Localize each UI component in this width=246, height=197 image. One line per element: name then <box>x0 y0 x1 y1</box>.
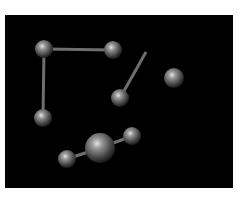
bond <box>43 49 44 118</box>
atom-sphere <box>164 68 184 88</box>
atom-sphere <box>123 127 141 145</box>
atom-sphere <box>35 40 53 58</box>
bond <box>44 49 113 50</box>
atom-sphere <box>85 133 115 163</box>
atoms-group <box>34 40 184 168</box>
molecule-model-illustration <box>0 0 246 197</box>
atom-sphere <box>34 109 52 127</box>
atom-sphere <box>104 41 122 59</box>
atom-sphere <box>58 150 76 168</box>
atom-sphere <box>111 89 129 107</box>
